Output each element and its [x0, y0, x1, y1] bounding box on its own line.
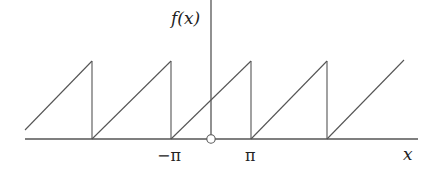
y-axis-label: f(x): [169, 8, 200, 28]
tick-label-neg-pi: −π: [157, 146, 181, 165]
sawtooth-ramp: [251, 61, 327, 139]
tick-label-pi: π: [245, 146, 256, 165]
sawtooth-ramp: [327, 60, 404, 139]
discontinuity-drops: [92, 61, 327, 139]
sawtooth-diagram: f(x) x −π π: [0, 0, 442, 172]
sawtooth-segments: [25, 60, 404, 139]
sawtooth-ramp: [25, 61, 92, 130]
x-axis-label: x: [403, 144, 413, 164]
sawtooth-ramp: [92, 61, 171, 139]
open-point-origin: [207, 135, 215, 143]
